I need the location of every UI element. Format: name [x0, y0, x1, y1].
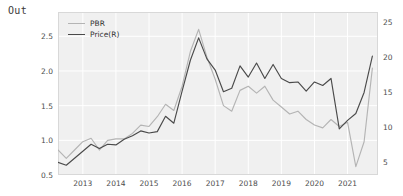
legend-label: Price(R) [90, 30, 119, 39]
y-left-tick-0.5: 0.5 [41, 171, 53, 180]
plot-area: 0.51.01.52.02.5 510152025 20132014201520… [58, 12, 378, 175]
x-tick-2017: 2017 [206, 179, 225, 188]
y-right-tick-25: 25 [383, 18, 393, 27]
y-right-tick-20: 20 [383, 53, 393, 62]
x-tick-2019: 2019 [272, 179, 291, 188]
legend-item: Price(R) [68, 29, 119, 40]
y-left-tick-2.5: 2.5 [41, 32, 53, 41]
chart-legend: PBRPrice(R) [64, 16, 123, 42]
x-tick-2018: 2018 [239, 179, 258, 188]
y-right-tick-15: 15 [383, 88, 393, 97]
x-tick-2016: 2016 [173, 179, 192, 188]
notebook-output-label: Out [8, 5, 27, 17]
legend-item: PBR [68, 18, 119, 29]
legend-line-swatch [68, 34, 85, 35]
legend-line-swatch [68, 23, 85, 24]
x-tick-2021: 2021 [338, 179, 357, 188]
legend-label: PBR [90, 19, 105, 28]
y-left-tick-1.0: 1.0 [41, 136, 53, 145]
y-left-tick-1.5: 1.5 [41, 101, 53, 110]
chart-figure: Out 0.51.01.52.02.5 510152025 2013201420… [0, 0, 403, 196]
x-tick-2020: 2020 [305, 179, 324, 188]
x-tick-2015: 2015 [139, 179, 158, 188]
x-tick-2014: 2014 [106, 179, 125, 188]
y-right-tick-5: 5 [383, 158, 388, 167]
x-tick-2013: 2013 [73, 179, 92, 188]
y-right-tick-10: 10 [383, 123, 393, 132]
y-left-tick-2.0: 2.0 [41, 66, 53, 75]
